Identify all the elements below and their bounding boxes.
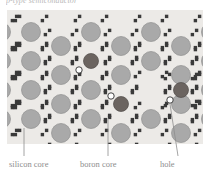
boron-core — [84, 54, 99, 69]
bond-electron — [104, 33, 107, 36]
bond-electron — [191, 62, 194, 65]
bond-electron — [44, 33, 47, 36]
bond-electron — [75, 58, 78, 61]
bond-electron — [135, 143, 138, 144]
bond-electron — [48, 116, 51, 119]
bond-electron — [198, 15, 201, 18]
bond-electron — [164, 91, 167, 94]
bond-electron — [135, 58, 138, 61]
lattice-panel — [7, 10, 203, 144]
bond-electron — [14, 48, 17, 51]
silicon-core — [142, 23, 161, 42]
bond-electron — [11, 48, 14, 51]
bond-electron — [138, 102, 141, 105]
bond-electron — [138, 15, 141, 18]
silicon-core — [82, 110, 101, 129]
bond-electron — [101, 19, 104, 22]
bond-electron — [195, 87, 198, 90]
bond-electron — [195, 73, 198, 76]
bond-electron — [198, 73, 201, 76]
bond-electron — [78, 44, 81, 47]
legend-labels: silicon core boron core hole — [0, 158, 209, 172]
bond-electron — [194, 19, 197, 22]
bond-electron — [48, 143, 51, 144]
silicon-core — [22, 110, 41, 129]
bond-electron — [161, 48, 164, 51]
silicon-core — [172, 124, 191, 143]
bond-electron — [131, 91, 134, 94]
silicon-core — [82, 81, 101, 100]
bond-electron — [134, 133, 137, 136]
bond-electron — [45, 129, 48, 132]
silicon-core — [52, 37, 71, 56]
boron-core — [174, 83, 189, 98]
bond-electron — [134, 19, 137, 22]
bond-electron — [198, 129, 201, 132]
bond-electron — [15, 73, 18, 76]
bond-electron — [134, 48, 137, 51]
bond-electron — [101, 75, 104, 78]
bond-electron — [138, 71, 141, 74]
bond-electron — [18, 44, 21, 47]
bond-electron — [74, 19, 77, 22]
bond-electron — [41, 19, 44, 22]
bond-electron — [74, 133, 77, 136]
silicon-core — [172, 66, 191, 85]
bond-electron — [108, 87, 111, 90]
bond-electron — [48, 29, 51, 32]
bond-electron — [195, 58, 198, 61]
bond-electron — [164, 104, 167, 107]
bond-electron — [191, 120, 194, 123]
bond-electron — [131, 118, 134, 121]
bond-electron — [78, 129, 81, 132]
bond-electron — [101, 133, 104, 136]
bond-electron — [161, 106, 164, 109]
bond-electron — [198, 102, 201, 105]
bond-electron — [194, 77, 197, 80]
bond-electron — [135, 114, 138, 117]
bond-electron — [164, 33, 167, 36]
bond-electron — [45, 44, 48, 47]
bond-electron — [45, 15, 48, 18]
bond-electron — [41, 106, 44, 109]
bond-electron — [15, 129, 18, 132]
bond-electron — [18, 129, 21, 132]
silicon-core — [52, 66, 71, 85]
bond-electron — [45, 102, 48, 105]
bond-electron — [194, 106, 197, 109]
bond-electron — [131, 62, 134, 65]
bond-electron — [191, 33, 194, 36]
bond-electron — [165, 71, 168, 74]
hole — [76, 67, 82, 73]
bond-electron — [191, 77, 194, 80]
bond-electron — [161, 19, 164, 22]
bond-electron — [105, 102, 108, 105]
bond-electron — [164, 62, 167, 65]
silicon-core — [22, 81, 41, 100]
bond-electron — [18, 73, 21, 76]
bond-electron — [108, 58, 111, 61]
legend-label-boron-core: boron core — [80, 158, 117, 170]
silicon-core — [22, 52, 41, 71]
bond-electron — [135, 29, 138, 32]
bond-electron — [168, 87, 171, 90]
bond-electron — [11, 133, 14, 136]
bond-electron — [134, 106, 137, 109]
bond-electron — [104, 91, 107, 94]
bond-electron — [195, 29, 198, 32]
bond-electron — [71, 33, 74, 36]
hole — [167, 97, 173, 103]
bond-electron — [71, 120, 74, 123]
bond-electron — [41, 48, 44, 51]
bond-electron — [135, 87, 138, 90]
bond-electron — [14, 106, 17, 109]
bond-electron — [48, 58, 51, 61]
bond-electron — [138, 44, 141, 47]
bond-electron — [71, 91, 74, 94]
bond-electron — [105, 71, 108, 74]
bond-electron — [11, 106, 14, 109]
boron-core — [114, 97, 129, 112]
bond-electron — [105, 129, 108, 132]
hole — [108, 93, 114, 99]
silicon-core — [142, 52, 161, 71]
